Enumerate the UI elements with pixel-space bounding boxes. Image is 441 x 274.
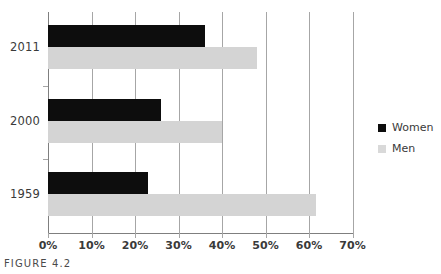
x-tick-20: [135, 233, 136, 238]
bar-men-2000: [48, 121, 222, 143]
women-swatch-icon: [378, 124, 386, 132]
legend-item-women: Women: [378, 117, 433, 138]
figure-caption: FIGURE 4.2: [4, 258, 71, 269]
bar-men-2011: [48, 47, 257, 69]
legend-item-men: Men: [378, 138, 433, 159]
x-tick-60: [309, 233, 310, 238]
legend-label-men: Men: [392, 142, 415, 155]
bar-women-2011: [48, 25, 205, 47]
x-tick-label-0: 0%: [28, 239, 68, 252]
x-tick-label-20: 20%: [115, 239, 155, 252]
x-tick-label-40: 40%: [202, 239, 242, 252]
chart-legend: Women Men: [378, 117, 433, 159]
x-axis-line: [48, 233, 353, 234]
y-label-1959: 1959: [0, 187, 40, 201]
y-label-2000: 2000: [0, 114, 40, 128]
y-tick-2: [43, 159, 48, 160]
y-label-2011: 2011: [0, 40, 40, 54]
x-tick-label-10: 10%: [72, 239, 112, 252]
y-tick-1: [43, 86, 48, 87]
x-tick-label-30: 30%: [159, 239, 199, 252]
x-tick-40: [222, 233, 223, 238]
x-tick-50: [266, 233, 267, 238]
x-tick-0: [48, 233, 49, 238]
x-tick-label-50: 50%: [246, 239, 286, 252]
men-swatch-icon: [378, 145, 386, 153]
x-tick-label-70: 70%: [333, 239, 373, 252]
figure-container: 0%10%20%30%40%50%60%70% 201120001959 Wom…: [0, 0, 441, 274]
legend-label-women: Women: [392, 121, 433, 134]
gridline-70: [353, 12, 354, 233]
x-tick-10: [92, 233, 93, 238]
x-tick-label-60: 60%: [289, 239, 329, 252]
bar-women-2000: [48, 99, 161, 121]
bar-women-1959: [48, 172, 148, 194]
bar-men-1959: [48, 194, 316, 216]
x-tick-30: [179, 233, 180, 238]
x-tick-70: [353, 233, 354, 238]
